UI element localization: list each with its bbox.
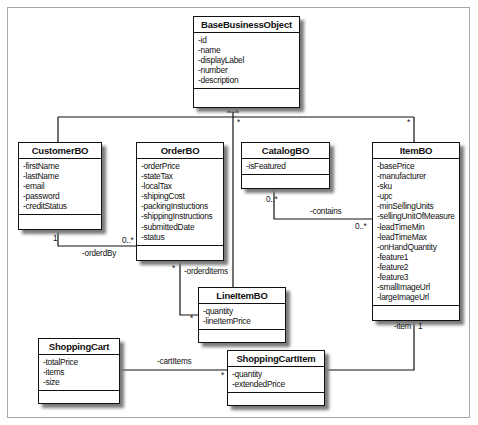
attribute: -minSellingUnits	[377, 201, 455, 211]
association-label: -cartItems	[157, 357, 191, 366]
attribute: -id	[198, 35, 295, 45]
attribute: -feature1	[377, 252, 455, 262]
attribute: -stateTax	[141, 171, 219, 181]
multiplicity-label: 1	[418, 322, 422, 331]
class-shopping-cart[interactable]: ShoppingCart -totalPrice -items -size	[38, 338, 120, 404]
operations-compartment	[39, 391, 119, 403]
class-name: OrderBO	[137, 143, 223, 159]
attribute: -sku	[377, 181, 455, 191]
attribute-list: -quantity -lineItemPrice	[199, 304, 285, 330]
class-order-bo[interactable]: OrderBO -orderPrice -stateTax -localTax …	[136, 142, 224, 261]
association-label: -contains	[310, 207, 341, 216]
attribute-list: -firstName -lastName -email -password -c…	[19, 159, 101, 215]
operations-compartment	[199, 330, 285, 342]
attribute: -email	[23, 181, 97, 191]
operations-compartment	[242, 175, 329, 188]
multiplicity-label: 0..*	[266, 195, 278, 204]
association-label: -item	[394, 322, 411, 331]
attribute: -leadTimeMax	[377, 232, 455, 242]
attribute: -basePrice	[377, 161, 455, 171]
attribute-list: -orderPrice -stateTax -localTax -shiping…	[137, 159, 223, 246]
attribute: -password	[23, 191, 97, 201]
attribute: -items	[43, 367, 115, 377]
attribute: -shipingCost	[141, 191, 219, 201]
multiplicity-label: *	[172, 264, 175, 273]
attribute: -leadTimeMin	[377, 222, 455, 232]
attribute-list: -isFeatured	[242, 159, 329, 175]
attribute-list: -totalPrice -items -size	[39, 355, 119, 391]
class-customer-bo[interactable]: CustomerBO -firstName -lastName -email -…	[18, 142, 102, 230]
attribute: -feature3	[377, 272, 455, 282]
attribute: -status	[141, 232, 219, 242]
multiplicity-label: 1	[53, 234, 57, 243]
attribute-list: -id -name -displayLabel -number -descrip…	[194, 33, 299, 89]
attribute: -lineItemPrice	[203, 316, 281, 326]
operations-compartment	[228, 393, 324, 405]
multiplicity-label: 0..*	[355, 222, 367, 231]
attribute: -orderPrice	[141, 161, 219, 171]
attribute: -sellingUnitOfMeasure	[377, 211, 455, 221]
attribute: -onHandQuantity	[377, 242, 455, 252]
class-name: ShoppingCart	[39, 339, 119, 355]
class-name: LineItemBO	[199, 288, 285, 304]
multiplicity-label: *	[407, 118, 410, 127]
multiplicity-label: *	[190, 314, 193, 323]
operations-compartment	[194, 89, 299, 107]
attribute: -feature2	[377, 262, 455, 272]
class-line-item-bo[interactable]: LineItemBO -quantity -lineItemPrice	[198, 287, 286, 343]
attribute: -extendedPrice	[232, 379, 320, 389]
class-name: ShoppingCartItem	[228, 351, 324, 367]
class-item-bo[interactable]: ItemBO -basePrice -manufacturer -sku -up…	[372, 142, 460, 321]
operations-compartment	[137, 246, 223, 260]
class-name: BaseBusinessObject	[194, 17, 299, 33]
attribute: -shippingInstructions	[141, 211, 219, 221]
attribute: -smallImageUrl	[377, 282, 455, 292]
association-label: -orderdBy	[82, 249, 116, 258]
class-name: ItemBO	[373, 143, 459, 159]
attribute: -localTax	[141, 181, 219, 191]
attribute: -name	[198, 45, 295, 55]
class-name: CustomerBO	[19, 143, 101, 159]
class-shopping-cart-item[interactable]: ShoppingCartItem -quantity -extendedPric…	[227, 350, 325, 406]
attribute-list: -quantity -extendedPrice	[228, 367, 324, 393]
attribute: -description	[198, 75, 295, 85]
class-base-business-object[interactable]: BaseBusinessObject -id -name -displayLab…	[193, 16, 300, 108]
attribute: -packingInstuctions	[141, 201, 219, 211]
operations-compartment	[19, 215, 101, 229]
attribute: -submittedDate	[141, 222, 219, 232]
association-label: -orderdItems	[184, 267, 228, 276]
multiplicity-label: *	[221, 371, 224, 380]
attribute: -number	[198, 65, 295, 75]
attribute: -totalPrice	[43, 357, 115, 367]
attribute: -quantity	[203, 306, 281, 316]
attribute: -creditStatus	[23, 201, 97, 211]
class-name: CatalogBO	[242, 143, 329, 159]
attribute: -firstName	[23, 161, 97, 171]
attribute: -isFeatured	[246, 161, 325, 171]
attribute: -size	[43, 377, 115, 387]
multiplicity-label: 0..*	[122, 236, 134, 245]
attribute: -upc	[377, 191, 455, 201]
attribute: -quantity	[232, 369, 320, 379]
attribute: -displayLabel	[198, 55, 295, 65]
multiplicity-label: *	[237, 118, 240, 127]
attribute-list: -basePrice -manufacturer -sku -upc -minS…	[373, 159, 459, 306]
attribute: -largeImageUrl	[377, 292, 455, 302]
class-catalog-bo[interactable]: CatalogBO -isFeatured	[241, 142, 330, 189]
operations-compartment	[373, 306, 459, 320]
attribute: -manufacturer	[377, 171, 455, 181]
attribute: -lastName	[23, 171, 97, 181]
